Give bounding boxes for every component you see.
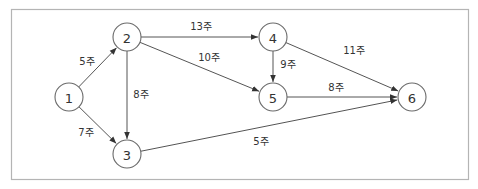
node-label: 4 <box>269 31 277 46</box>
node-6: 6 <box>398 83 426 111</box>
edge-label-4-5: 9주 <box>280 59 295 70</box>
edge-label-2-3: 8주 <box>133 89 148 100</box>
node-5: 5 <box>259 83 287 111</box>
node-2: 2 <box>113 23 141 51</box>
node-1: 1 <box>55 83 83 111</box>
node-label: 1 <box>65 91 73 106</box>
network-diagram: 5주7주8주13주10주9주11주8주5주 123456 <box>0 0 478 189</box>
node-label: 5 <box>269 91 277 106</box>
edge-label-5-6: 8주 <box>328 82 343 93</box>
edge-label-1-3: 7주 <box>78 127 93 138</box>
node-label: 2 <box>123 31 131 46</box>
edge-label-4-6: 11주 <box>343 45 365 56</box>
edge-label-2-5: 10주 <box>198 52 220 63</box>
edge-label-1-2: 5주 <box>79 56 94 67</box>
node-4: 4 <box>259 23 287 51</box>
node-label: 3 <box>123 148 131 163</box>
edge-label-2-4: 13주 <box>190 21 212 32</box>
node-3: 3 <box>113 140 141 168</box>
node-label: 6 <box>408 91 416 106</box>
edge-label-3-6: 5주 <box>253 136 268 147</box>
